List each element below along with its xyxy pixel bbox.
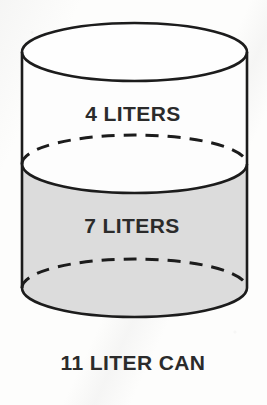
figure-caption: 11 LITER CAN: [61, 351, 206, 374]
lower-chamber-label: 7 LITERS: [84, 214, 179, 237]
can-diagram: 4 LITERS 7 LITERS 11 LITER CAN: [0, 0, 267, 405]
upper-chamber-label: 4 LITERS: [85, 102, 180, 125]
